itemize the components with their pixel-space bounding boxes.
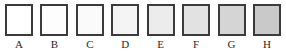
swatch-f[interactable] xyxy=(182,4,210,36)
swatch-g[interactable] xyxy=(218,4,246,36)
swatch-label-b: B xyxy=(40,38,68,51)
swatch-b[interactable] xyxy=(40,4,68,36)
swatch-label-a: A xyxy=(5,38,33,51)
swatch-cell-e[interactable] xyxy=(147,4,175,36)
swatch-cell-h[interactable] xyxy=(253,4,281,36)
swatch-cell-c[interactable] xyxy=(76,4,104,36)
swatch-c[interactable] xyxy=(76,4,104,36)
swatch-label-c: C xyxy=(76,38,104,51)
swatch-cell-g[interactable] xyxy=(218,4,246,36)
grayscale-swatch-scale: A B C D E F G H xyxy=(0,0,286,52)
swatch-h[interactable] xyxy=(253,4,281,36)
swatch-cell-b[interactable] xyxy=(40,4,68,36)
swatch-label-g: G xyxy=(218,38,246,51)
swatch-cell-d[interactable] xyxy=(111,4,139,36)
swatch-label-f: F xyxy=(182,38,210,51)
swatch-cell-a[interactable] xyxy=(5,4,33,36)
swatch-label-e: E xyxy=(147,38,175,51)
label-row: A B C D E F G H xyxy=(5,37,281,51)
swatch-row xyxy=(5,4,281,36)
swatch-d[interactable] xyxy=(111,4,139,36)
swatch-cell-f[interactable] xyxy=(182,4,210,36)
swatch-a[interactable] xyxy=(5,4,33,36)
swatch-e[interactable] xyxy=(147,4,175,36)
swatch-label-h: H xyxy=(253,38,281,51)
swatch-label-d: D xyxy=(111,38,139,51)
